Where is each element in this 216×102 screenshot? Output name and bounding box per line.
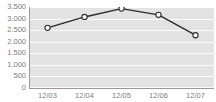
y-tick-label: 2.500	[0, 26, 26, 34]
x-tick-label: 12/06	[149, 91, 168, 100]
y-tick-label: 2.000	[0, 38, 26, 46]
data-point-marker	[193, 33, 198, 38]
x-axis-tick-labels: 12/0312/0412/0512/0612/07	[29, 91, 214, 101]
y-axis-line	[29, 7, 30, 89]
y-tick-label: 3.000	[0, 15, 26, 23]
x-tick-label: 12/05	[112, 91, 131, 100]
series-group	[29, 7, 214, 88]
y-axis-tick-labels: 05001.0001.5002.0002.5003.0003.500	[0, 7, 26, 88]
series-line	[48, 9, 196, 36]
x-tick-label: 12/03	[38, 91, 57, 100]
line-chart-widget: 05001.0001.5002.0002.5003.0003.500 12/03…	[0, 0, 216, 102]
y-tick-label: 1.500	[0, 50, 26, 58]
data-point-marker	[156, 12, 161, 17]
plot-area	[29, 7, 214, 88]
y-tick-label: 3.500	[0, 3, 26, 11]
x-axis-line	[29, 88, 214, 89]
y-tick-label: 0	[0, 84, 26, 92]
x-tick-label: 12/04	[75, 91, 94, 100]
data-point-marker	[82, 14, 87, 19]
data-point-marker	[45, 25, 50, 30]
chart-title-fragment	[0, 0, 216, 3]
x-tick-label: 12/07	[186, 91, 205, 100]
data-point-marker	[119, 7, 124, 11]
y-tick-label: 1.000	[0, 61, 26, 69]
y-tick-label: 500	[0, 73, 26, 81]
